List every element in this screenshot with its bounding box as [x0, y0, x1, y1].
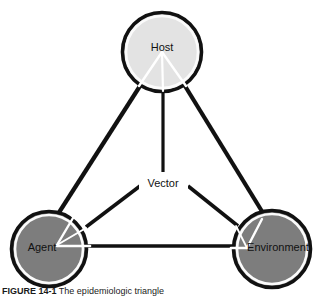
node-vector[interactable]: Vector [139, 175, 188, 193]
node-environment[interactable]: Environment [231, 211, 311, 288]
figure-caption: FIGURE 14-1 The epidemiologic triangle [2, 286, 324, 297]
figure-container: Host Agent Environment [0, 0, 326, 298]
node-host[interactable]: Host [123, 13, 202, 92]
node-host-label: Host [151, 41, 174, 53]
node-agent[interactable]: Agent [12, 212, 91, 287]
node-vector-label: Vector [147, 177, 179, 189]
edge-group-vector [86, 88, 238, 227]
edge-agent-vector [86, 186, 140, 227]
host-spoke-to-vector [162, 52, 163, 91]
epidemiologic-triangle-diagram: Host Agent Environment [0, 0, 326, 298]
node-agent-label: Agent [28, 241, 57, 253]
node-environment-label: Environment [247, 241, 309, 253]
edge-environment-vector [188, 186, 238, 226]
figure-caption-text: The epidemiologic triangle [59, 286, 164, 296]
figure-caption-label: FIGURE 14-1 [2, 286, 57, 296]
